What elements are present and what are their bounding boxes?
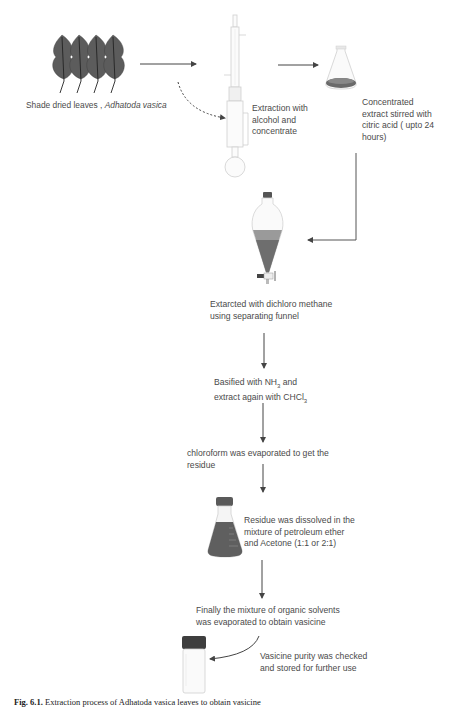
- evaporate-chloroform-label: chloroform was evaporated to get the res…: [187, 448, 329, 471]
- arrow-final-to-vial: [210, 636, 259, 659]
- evaporate-solvents-label: Finally the mixture of organic solvents …: [196, 605, 340, 628]
- separating-funnel-icon: [247, 190, 287, 286]
- arrow-flask-to-funnel: [308, 153, 356, 240]
- vial-icon: [180, 636, 208, 694]
- figure-caption: Fig. 6.1. Extraction process of Adhatoda…: [14, 697, 261, 707]
- dissolve-label: Residue was dissolved in the mixture of …: [244, 515, 355, 550]
- basify-label: Basified with NH3 and extract again with…: [214, 377, 307, 407]
- store-label: Vasicine purity was checked and stored f…: [260, 651, 367, 674]
- separating-funnel-label: Extarcted with dichloro methane using se…: [210, 299, 332, 322]
- erlenmeyer-flask-icon: [323, 45, 359, 95]
- flask-stir-label: Concentrated extract stirred with citric…: [362, 97, 434, 143]
- dotted-arrow: [178, 82, 225, 118]
- soxhlet-apparatus-icon: [220, 15, 270, 175]
- soxhlet-label: Extraction with alcohol and concentrate: [252, 103, 308, 138]
- capped-flask-icon: [207, 496, 245, 560]
- leaves-label: Shade dried leaves , Adhatoda vasica: [26, 100, 167, 112]
- leaves-icon: [50, 33, 150, 98]
